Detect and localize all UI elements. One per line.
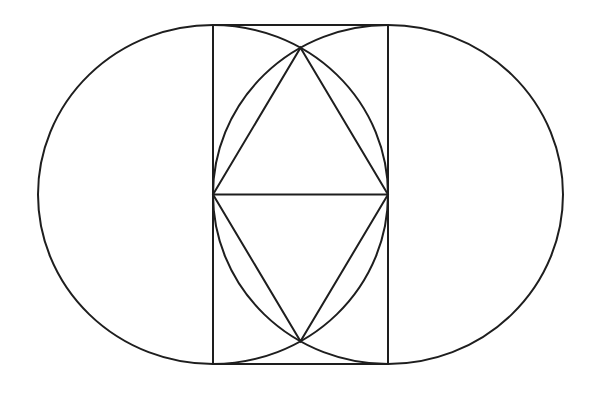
diagram-svg <box>0 0 593 393</box>
geometric-diagram <box>0 0 593 393</box>
